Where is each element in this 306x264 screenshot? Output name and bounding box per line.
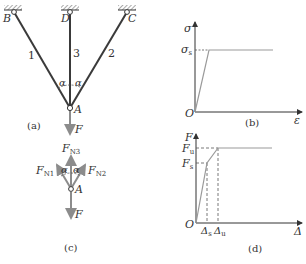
label-delta-u: Δu [214, 226, 226, 238]
label-fn3: FN3 [62, 143, 80, 156]
node-a [67, 105, 72, 110]
label-origin-d: O [185, 219, 194, 230]
label-sigma-s: σs [181, 44, 192, 57]
caption-b: (b) [245, 118, 259, 128]
label-b: B [3, 13, 11, 24]
label-load-f-c: F [75, 209, 83, 220]
bar-2 [70, 12, 127, 108]
label-node-a-c: A [75, 184, 83, 195]
label-origin-b: O [185, 108, 194, 119]
label-fs: Fs [182, 158, 193, 171]
label-c: C [128, 13, 136, 24]
label-node-a: A [74, 104, 82, 115]
caption-d: (d) [248, 244, 262, 254]
label-d: D [61, 13, 70, 24]
figure-root: B D C 1 3 2 α α A (a) F FN3 FN1 FN2 α α … [0, 0, 306, 264]
label-bar-2: 2 [108, 48, 115, 59]
label-bar-3: 3 [73, 48, 80, 59]
label-fn1: FN1 [36, 165, 54, 178]
support-b [4, 5, 22, 10]
label-fu: Fu [182, 143, 194, 156]
label-delta-axis: Δ [294, 226, 302, 237]
label-bar-1: 1 [28, 50, 35, 61]
label-load-f: F [75, 124, 83, 135]
label-delta-s: Δs [201, 226, 212, 238]
label-epsilon-axis: ε [294, 115, 300, 126]
bar-1 [14, 12, 70, 108]
label-alpha-c-right: α [73, 165, 80, 175]
load-displacement-chart [196, 134, 302, 223]
caption-c: (c) [64, 243, 77, 253]
label-fn2: FN2 [88, 165, 106, 178]
caption-a: (a) [27, 121, 41, 131]
stress-strain-curve [195, 50, 273, 112]
label-alpha-right: α [75, 78, 82, 88]
node-a-c [69, 187, 74, 192]
label-alpha-c-left: α [61, 165, 68, 175]
truss-diagram [4, 5, 136, 134]
stress-strain-chart [195, 22, 302, 112]
label-sigma-axis: σ [184, 23, 192, 34]
label-alpha-left: α [59, 78, 66, 88]
diagram-canvas [0, 0, 306, 264]
